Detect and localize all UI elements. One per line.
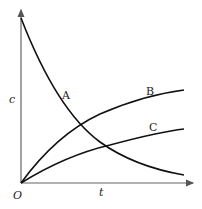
curve-c-label: C <box>149 121 157 134</box>
curve-c <box>21 129 184 183</box>
curve-a <box>21 18 184 175</box>
curve-a-label: A <box>61 89 71 102</box>
concentration-time-chart: A B C c t O <box>0 0 202 209</box>
curve-b-label: B <box>146 85 154 98</box>
x-axis-label: t <box>99 186 104 199</box>
y-axis-label: c <box>9 93 15 106</box>
origin-label: O <box>13 189 22 202</box>
